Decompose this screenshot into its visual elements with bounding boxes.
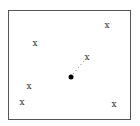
x-mark-1: x: [104, 21, 109, 30]
x-mark-6: x: [111, 100, 116, 109]
x-mark-3: x: [84, 53, 89, 62]
x-mark-4: x: [26, 82, 31, 91]
x-mark-5: x: [19, 98, 24, 107]
dotted-connector-line: [0, 0, 140, 126]
center-point-dot: [69, 75, 74, 80]
x-mark-2: x: [32, 39, 37, 48]
